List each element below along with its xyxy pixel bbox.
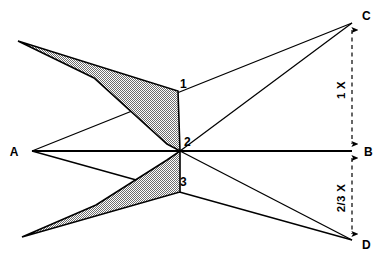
lower-band-shape (22, 151, 180, 237)
label-point-1: 1 (180, 77, 187, 91)
label-point-3: 3 (180, 175, 187, 189)
lower-shaded-band (22, 151, 180, 237)
ray-p2-to-d (180, 151, 352, 240)
label-c: C (362, 9, 371, 23)
ray-diagram: A B C D 1 2 3 1 X 2/3 X (0, 0, 392, 259)
ray-lines (32, 23, 352, 240)
label-a: A (10, 145, 19, 159)
dimension-label-upper: 1 X (335, 81, 347, 99)
dimension-label-lower: 2/3 X (335, 184, 347, 212)
ray-p2-to-c (180, 23, 352, 151)
label-point-2: 2 (184, 135, 191, 149)
upper-band-shape (18, 41, 180, 151)
label-d: D (362, 238, 371, 252)
upper-shaded-band (18, 41, 180, 151)
ray-a-to-c (32, 23, 352, 151)
ray-a-to-d (32, 151, 352, 240)
diagram-canvas: A B C D 1 2 3 1 X 2/3 X (0, 0, 392, 259)
label-b: B (364, 145, 373, 159)
